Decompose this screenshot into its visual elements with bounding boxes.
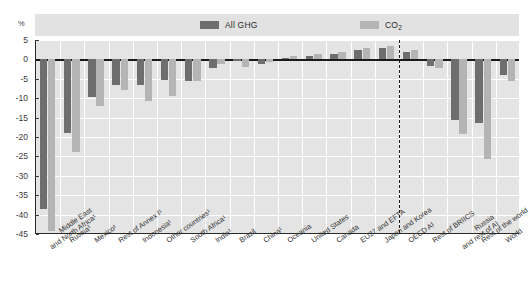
y-axis-labels: 50-5-10-15-20-25-30-35-40-45 xyxy=(0,40,32,234)
bar-all-ghg xyxy=(137,59,144,85)
bar-group xyxy=(399,40,423,233)
bar-co2 xyxy=(484,59,491,158)
bar-co2 xyxy=(169,59,176,95)
bar-co2 xyxy=(508,59,515,81)
bar-group xyxy=(157,40,181,233)
bar-group xyxy=(205,40,229,233)
y-axis-unit-label: % xyxy=(18,19,25,28)
bar-all-ghg xyxy=(209,59,216,67)
bar-group xyxy=(254,40,278,233)
bar-group xyxy=(447,40,471,233)
y-axis-tick-label: -10 xyxy=(16,93,28,103)
legend-label-all-ghg: All GHG xyxy=(225,20,258,30)
bar-co2 xyxy=(435,59,442,68)
legend: All GHG CO2 xyxy=(35,14,519,36)
y-axis-tick-label: -35 xyxy=(16,190,28,200)
bar-co2 xyxy=(72,59,79,151)
legend-entry-all-ghg: All GHG xyxy=(200,20,258,30)
bar-co2 xyxy=(145,59,152,100)
bar-all-ghg xyxy=(112,59,119,84)
bar-all-ghg xyxy=(282,58,289,60)
bar-group xyxy=(375,40,399,233)
bar-co2 xyxy=(121,59,128,90)
y-axis-tick-label: 5 xyxy=(23,35,28,45)
bar-all-ghg xyxy=(379,48,386,59)
y-axis-tick-label: -25 xyxy=(16,151,28,161)
y-axis-tick-label: -30 xyxy=(16,171,28,181)
legend-swatch-co2 xyxy=(360,21,379,29)
bar-group xyxy=(278,40,302,233)
bar-all-ghg xyxy=(185,59,192,81)
legend-swatch-all-ghg xyxy=(200,21,219,29)
bar-co2 xyxy=(459,59,466,133)
bar-all-ghg xyxy=(88,59,95,97)
bar-co2 xyxy=(242,59,249,67)
bar-all-ghg xyxy=(451,59,458,120)
legend-entry-co2: CO2 xyxy=(360,20,402,30)
bar-co2 xyxy=(193,59,200,80)
y-axis-tick-label: 0 xyxy=(23,54,28,64)
bar-co2 xyxy=(387,46,394,59)
bar-co2 xyxy=(338,52,345,59)
bar-all-ghg xyxy=(161,59,168,79)
bar-co2 xyxy=(48,59,55,230)
bar-group xyxy=(423,40,447,233)
y-axis-tick-label: -5 xyxy=(20,74,28,84)
bar-all-ghg xyxy=(354,50,361,59)
y-axis-tick-label: -20 xyxy=(16,132,28,142)
y-axis-tick-mark xyxy=(36,234,39,235)
bar-co2 xyxy=(290,56,297,60)
bar-group xyxy=(133,40,157,233)
bar-all-ghg xyxy=(306,56,313,59)
bar-co2 xyxy=(363,48,370,59)
bar-all-ghg xyxy=(330,54,337,59)
y-axis-tick-label: -40 xyxy=(16,210,28,220)
bar-co2 xyxy=(411,50,418,60)
bar-group xyxy=(36,40,60,233)
bar-group xyxy=(109,40,133,233)
bar-group xyxy=(230,40,254,233)
bar-all-ghg xyxy=(427,59,434,65)
bar-group xyxy=(496,40,520,233)
y-axis-tick-label: -15 xyxy=(16,113,28,123)
bar-group xyxy=(84,40,108,233)
bar-co2 xyxy=(96,59,103,106)
bar-group xyxy=(60,40,84,233)
bar-group xyxy=(326,40,350,233)
bar-all-ghg xyxy=(64,59,71,133)
bar-series-container xyxy=(36,40,519,233)
bar-co2 xyxy=(217,59,224,63)
bar-group xyxy=(302,40,326,233)
bar-co2 xyxy=(266,59,273,61)
bar-co2 xyxy=(314,54,321,60)
plot-area xyxy=(35,40,519,234)
bar-all-ghg xyxy=(40,59,47,208)
bar-all-ghg xyxy=(475,59,482,123)
bar-all-ghg xyxy=(500,59,507,74)
bar-group xyxy=(181,40,205,233)
legend-label-co2: CO2 xyxy=(385,20,402,30)
x-axis-category-labels: Middle Eastand North Africa¹Russia¹Mexic… xyxy=(0,236,524,293)
bar-all-ghg xyxy=(233,59,240,61)
bar-all-ghg xyxy=(403,52,410,59)
bar-group xyxy=(472,40,496,233)
bar-all-ghg xyxy=(258,59,265,64)
bar-group xyxy=(351,40,375,233)
